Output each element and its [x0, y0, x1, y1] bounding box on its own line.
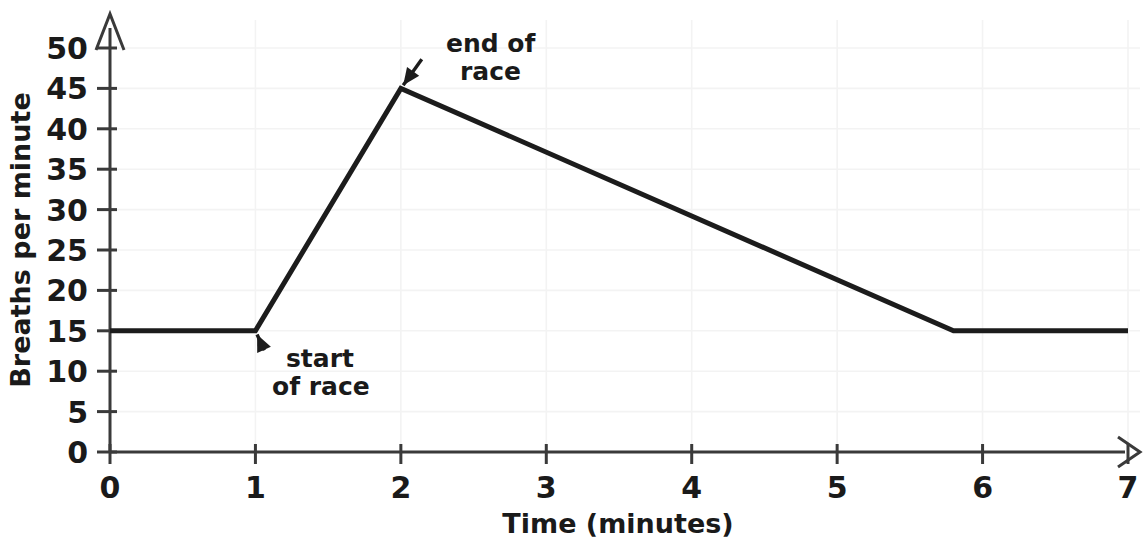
- annotation-group: startof raceend ofrace: [257, 29, 536, 401]
- y-axis-ticks: [97, 48, 117, 452]
- annotation-label-line1: end of: [446, 29, 537, 58]
- annotation-arrowhead-icon: [403, 67, 419, 85]
- annotation-label-line2: race: [460, 57, 521, 86]
- vertical-gridlines: [255, 20, 1128, 452]
- annotation-start-of-race: startof race: [257, 334, 370, 401]
- y-tick-label: 50: [46, 31, 88, 66]
- x-tick-label: 0: [100, 470, 121, 505]
- y-axis-tick-labels: 05101520253035404550: [46, 31, 88, 470]
- y-tick-label: 35: [46, 152, 88, 187]
- breaths-per-minute-line-chart: 01234567 05101520253035404550 startof ra…: [0, 0, 1146, 543]
- y-tick-label: 30: [46, 193, 88, 228]
- y-tick-label: 10: [46, 354, 88, 389]
- x-axis-tick-labels: 01234567: [100, 470, 1139, 505]
- y-tick-label: 0: [67, 435, 88, 470]
- x-tick-label: 2: [390, 470, 411, 505]
- x-tick-label: 5: [827, 470, 848, 505]
- x-axis-ticks: [110, 444, 1128, 464]
- y-tick-label: 15: [46, 314, 88, 349]
- annotation-end-of-race: end ofrace: [403, 29, 536, 86]
- x-tick-label: 1: [245, 470, 266, 505]
- horizontal-gridlines: [110, 48, 1140, 412]
- annotation-label-line2: of race: [272, 372, 370, 401]
- x-tick-label: 3: [536, 470, 557, 505]
- y-tick-label: 20: [46, 273, 88, 308]
- y-tick-label: 5: [67, 395, 88, 430]
- y-tick-label: 45: [46, 71, 88, 106]
- y-tick-label: 40: [46, 112, 88, 147]
- chart-container: 01234567 05101520253035404550 startof ra…: [0, 0, 1146, 543]
- x-axis-title: Time (minutes): [502, 508, 733, 539]
- x-tick-label: 6: [972, 470, 993, 505]
- annotation-label-line1: start: [286, 344, 354, 373]
- y-axis-title: Breaths per minute: [5, 92, 36, 387]
- x-tick-label: 7: [1118, 470, 1139, 505]
- y-tick-label: 25: [46, 233, 88, 268]
- x-tick-label: 4: [681, 470, 702, 505]
